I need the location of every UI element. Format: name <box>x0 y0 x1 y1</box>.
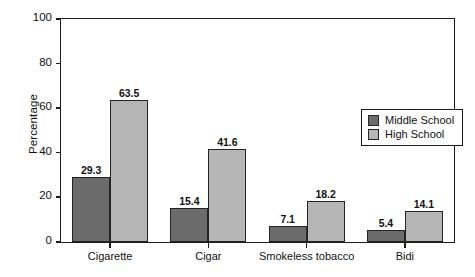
y-axis-title: Percentage <box>27 44 39 204</box>
x-tick-mark <box>109 242 111 248</box>
x-tick-label: Bidi <box>396 250 414 262</box>
legend-item: Middle School <box>368 115 454 126</box>
x-tick-label: Smokeless tobacco <box>259 250 354 262</box>
bar: 15.4 <box>170 208 208 242</box>
y-tick-label: 40 <box>39 145 52 157</box>
x-tick-mark <box>404 242 406 248</box>
bar-value-label: 5.4 <box>379 217 393 229</box>
y-tick-label: 80 <box>39 56 52 68</box>
y-tick-mark <box>56 18 61 20</box>
legend-label: Middle School <box>385 115 454 126</box>
bar-value-label: 63.5 <box>119 87 139 99</box>
y-tick-mark <box>56 241 61 243</box>
bar-value-label: 29.3 <box>81 164 101 176</box>
bar: 29.3 <box>72 177 110 242</box>
bar-value-label: 7.1 <box>280 213 294 225</box>
bar: 14.1 <box>405 211 443 242</box>
x-tick-mark <box>208 242 210 248</box>
y-tick-mark <box>56 107 61 109</box>
y-tick-label: 100 <box>33 11 52 23</box>
bar: 18.2 <box>307 201 345 242</box>
y-tick-label: 60 <box>39 100 52 112</box>
legend: Middle SchoolHigh School <box>361 109 463 146</box>
bar-chart: Percentage 020406080100 CigaretteCigarSm… <box>0 0 475 277</box>
legend-label: High School <box>385 129 444 140</box>
legend-swatch <box>368 129 379 140</box>
y-tick-label: 0 <box>46 234 52 246</box>
bar: 5.4 <box>367 230 405 242</box>
x-tick-label: Cigar <box>195 250 221 262</box>
bar-value-label: 14.1 <box>414 198 434 210</box>
y-tick-mark <box>56 63 61 65</box>
bar-value-label: 15.4 <box>179 195 199 207</box>
legend-item: High School <box>368 129 454 140</box>
y-tick-mark <box>56 196 61 198</box>
x-tick-label: Cigarette <box>88 250 133 262</box>
bar: 63.5 <box>110 100 148 242</box>
y-tick-label: 20 <box>39 189 52 201</box>
bar-value-label: 41.6 <box>217 136 237 148</box>
bar-value-label: 18.2 <box>316 188 336 200</box>
x-tick-mark <box>306 242 308 248</box>
bar: 41.6 <box>208 149 246 242</box>
legend-swatch <box>368 115 379 126</box>
bar: 7.1 <box>269 226 307 242</box>
y-tick-mark <box>56 152 61 154</box>
plot-area: 020406080100 CigaretteCigarSmokeless tob… <box>60 18 455 243</box>
